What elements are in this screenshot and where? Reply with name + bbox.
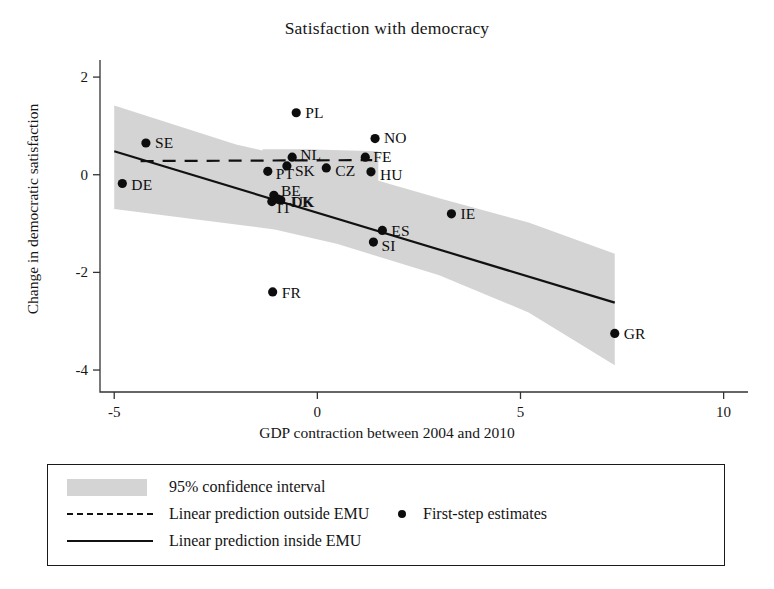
legend-label-outside-emu: Linear prediction outside EMU	[169, 505, 369, 523]
legend-item-inside-emu: Linear prediction inside EMU	[67, 528, 361, 554]
confidence-band-swatch-icon	[67, 476, 155, 498]
legend-label-first-step-estimates: First-step estimates	[423, 505, 547, 523]
data-point-label: FR	[282, 284, 301, 302]
confidence-band-inside-emu	[114, 105, 615, 365]
data-point-label: PT	[276, 165, 294, 183]
figure: Satisfaction with democracy Change in de…	[0, 0, 774, 589]
x-tick-label: 5	[517, 404, 525, 421]
data-point-marker	[118, 179, 127, 188]
legend-label-inside-emu: Linear prediction inside EMU	[169, 532, 361, 550]
data-point-label: SK	[295, 162, 315, 180]
legend-label-confidence-interval: 95% confidence interval	[169, 478, 325, 496]
legend-item-outside-emu: Linear prediction outside EMU	[67, 501, 369, 527]
solid-line-swatch-icon	[67, 530, 155, 552]
data-point-label: HU	[380, 166, 403, 184]
y-tick-label: 2	[81, 69, 89, 86]
data-point-marker	[370, 134, 379, 143]
y-axis-title: Change in democratic satisfaction	[24, 44, 42, 374]
dashed-line-swatch-icon	[67, 503, 155, 525]
point-marker-swatch-icon	[393, 503, 415, 525]
data-point-label: IT	[277, 199, 292, 217]
scatter-chart-svg	[0, 0, 774, 455]
data-point-label: FE	[373, 148, 391, 166]
y-tick-label: -2	[76, 264, 89, 281]
data-point-label: SE	[155, 134, 173, 152]
data-point-label: DE	[131, 176, 152, 194]
data-point-label: CZ	[335, 162, 355, 180]
legend-item-first-step-estimates: First-step estimates	[393, 501, 547, 527]
x-axis-title: GDP contraction between 2004 and 2010	[0, 424, 774, 442]
data-point-label: NO	[384, 129, 407, 147]
y-tick-label: -4	[76, 362, 89, 379]
data-point-marker	[141, 138, 150, 147]
data-point-label: UK	[292, 193, 315, 211]
x-tick-label: 0	[314, 404, 322, 421]
data-point-label: IE	[460, 205, 475, 223]
data-point-marker	[263, 167, 272, 176]
legend-item-confidence-interval: 95% confidence interval	[67, 474, 325, 500]
y-tick-label: 0	[81, 166, 89, 183]
x-tick-label: 10	[716, 404, 731, 421]
data-point-marker	[366, 167, 375, 176]
chart-plot-area: Satisfaction with democracy Change in de…	[0, 0, 774, 455]
x-tick-label: -5	[108, 404, 121, 421]
data-point-marker	[361, 153, 370, 162]
data-point-marker	[369, 238, 378, 247]
data-point-marker	[288, 153, 297, 162]
data-point-label: GR	[624, 325, 646, 343]
data-point-label: ES	[391, 222, 409, 240]
data-point-marker	[610, 329, 619, 338]
data-point-marker	[447, 209, 456, 218]
data-point-label: PL	[305, 104, 323, 122]
legend: 95% confidence interval Linear predictio…	[47, 464, 725, 566]
data-point-marker	[268, 287, 277, 296]
data-point-marker	[322, 163, 331, 172]
data-point-marker	[378, 226, 387, 235]
data-point-marker	[292, 108, 301, 117]
